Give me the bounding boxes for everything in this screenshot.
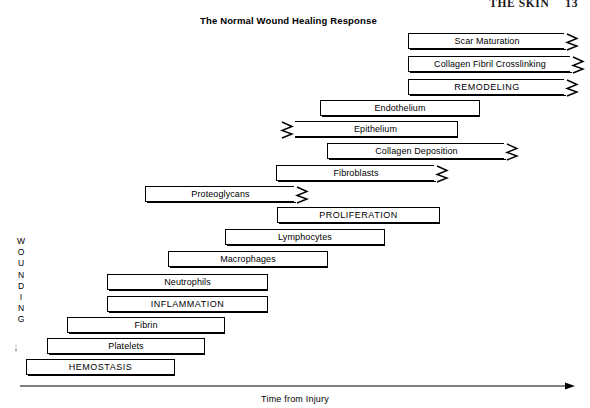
wounding-letter: I: [13, 292, 29, 303]
wounding-letter: U: [13, 258, 29, 269]
timeline-bar-label: Epithelium: [354, 125, 397, 134]
wounding-letter: W: [13, 236, 29, 247]
wounding-letter: D: [13, 281, 29, 292]
timeline-bar-label: Endothelium: [374, 104, 425, 113]
timeline-bar-label: INFLAMMATION: [151, 300, 224, 309]
timeline-bar-label: Platelets: [108, 342, 143, 351]
timeline-bar: Macrophages: [168, 251, 328, 267]
timeline-bar-label: Fibroblasts: [333, 169, 378, 178]
timeline-bar: HEMOSTASIS: [26, 359, 175, 375]
bar-edge-mask: [292, 121, 295, 138]
wounding-axis-label: WOUNDING: [13, 236, 29, 326]
timeline-bar: Endothelium: [320, 100, 480, 116]
page-number: 13: [565, 0, 578, 7]
timeline-bar: Fibrin: [67, 317, 225, 333]
time-axis-arrow: [20, 381, 575, 391]
wounding-letter: N: [13, 270, 29, 281]
timeline-bar-label: Fibrin: [134, 321, 157, 330]
wounding-letter: G: [13, 314, 29, 325]
timeline-bar: Proteoglycans: [145, 186, 296, 202]
timeline-bar-label: Collagen Deposition: [375, 147, 457, 156]
timeline-bar-label: REMODELING: [454, 83, 520, 92]
timeline-bar-label: HEMOSTASIS: [69, 363, 132, 372]
timeline-bar: Fibroblasts: [276, 165, 436, 181]
down-arrow-icon: [15, 330, 17, 366]
timeline-bar: REMODELING: [408, 79, 566, 95]
timeline-bar-label: PROLIFERATION: [319, 211, 397, 220]
timeline-bar-label: Collagen Fibril Crosslinking: [434, 60, 546, 69]
bar-edge-mask: [504, 143, 507, 160]
page-running-head: THE SKIN13: [489, 0, 578, 7]
timeline-bar: INFLAMMATION: [107, 296, 268, 312]
timeline-bar-label: Macrophages: [220, 255, 276, 264]
wounding-letter: N: [13, 303, 29, 314]
timeline-bar: Platelets: [47, 338, 205, 354]
timeline-bar-label: Neutrophils: [164, 278, 211, 287]
timeline-bar: Epithelium: [293, 121, 458, 137]
timeline-bar: Scar Maturation: [408, 33, 566, 49]
figure-title: The Normal Wound Healing Response: [200, 15, 377, 26]
bar-edge-mask: [564, 33, 567, 50]
wound-healing-figure: THE SKIN13 The Normal Wound Healing Resp…: [0, 0, 590, 408]
bar-edge-mask: [434, 165, 437, 182]
timeline-bar: Lymphocytes: [225, 229, 385, 245]
timeline-bar-label: Proteoglycans: [191, 190, 249, 199]
timeline-bar: Collagen Deposition: [327, 143, 506, 159]
timeline-bar: PROLIFERATION: [277, 207, 440, 223]
timeline-bar-label: Scar Maturation: [454, 37, 519, 46]
time-axis-label: Time from Injury: [0, 394, 590, 404]
timeline-bar: Neutrophils: [107, 274, 268, 290]
book-section-title: THE SKIN: [489, 0, 549, 7]
timeline-bar: Collagen Fibril Crosslinking: [408, 56, 572, 72]
bar-edge-mask: [570, 56, 573, 73]
wounding-letter: O: [13, 247, 29, 258]
timeline-bar-label: Lymphocytes: [278, 233, 332, 242]
bar-edge-mask: [294, 186, 297, 203]
bar-edge-mask: [564, 79, 567, 96]
